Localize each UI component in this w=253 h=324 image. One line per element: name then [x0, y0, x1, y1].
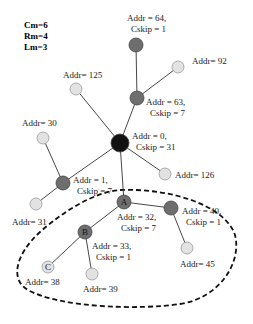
node-n40: Addr = 40,Cskip = 1	[164, 201, 221, 227]
node-label: Cskip = 1	[131, 24, 166, 34]
node-label: Addr= 92	[192, 56, 227, 66]
end_device-circle-icon	[181, 242, 193, 254]
node-label: Addr = 40,	[182, 206, 221, 216]
end_device-circle-icon	[159, 168, 171, 180]
node-n1: Addr = 1,Cskip = 7	[56, 175, 113, 196]
node-n92: Addr= 92	[172, 56, 227, 73]
param-lm: Lm=3	[24, 42, 48, 52]
edges	[36, 45, 187, 274]
node-label: Addr = 64,	[127, 13, 166, 23]
router-circle-icon	[130, 91, 144, 105]
param-cm: Cm=6	[24, 20, 48, 30]
node-n32: AAddr = 32,Cskip = 7	[117, 195, 157, 233]
parameters: Cm=6 Rm=4 Lm=3	[24, 20, 48, 52]
end_device-circle-icon	[70, 83, 82, 95]
node-label: Cskip = 1	[96, 252, 131, 262]
nodes: Addr = 0,Cskip = 31Addr = 63,Cskip = 7Ad…	[12, 13, 227, 294]
node-label: Addr = 63,	[146, 97, 185, 107]
node-label: Addr = 0,	[132, 131, 167, 141]
router-circle-icon	[129, 38, 143, 52]
node-label: Cskip = 7	[150, 108, 186, 118]
node-n0: Addr = 0,Cskip = 31	[111, 131, 176, 152]
node-n38: CAddr= 38	[25, 261, 60, 287]
end_device-circle-icon	[30, 198, 42, 210]
node-label: Addr= 126	[175, 170, 215, 180]
router-circle-icon	[56, 176, 70, 190]
node-label: Cskip = 7	[121, 223, 157, 233]
node-letter: B	[82, 227, 88, 237]
node-n45: Addr= 45	[180, 242, 215, 269]
node-letter: C	[45, 262, 51, 272]
zigbee-tree-diagram: Cm=6 Rm=4 Lm=3 Addr = 0,Cskip = 31Addr =…	[0, 0, 253, 324]
node-n125: Addr= 125	[63, 70, 103, 95]
node-n31: Addr= 31	[12, 198, 47, 227]
end_device-circle-icon	[37, 132, 49, 144]
node-n39: Addr= 39	[83, 268, 118, 294]
end_device-circle-icon	[172, 61, 184, 73]
node-letter: A	[121, 197, 128, 207]
param-rm: Rm=4	[24, 31, 48, 41]
edge-n63-n64	[136, 45, 137, 98]
node-label: Cskip = 7	[77, 186, 113, 196]
node-label: Addr= 125	[63, 70, 103, 80]
node-n126: Addr= 126	[159, 168, 215, 180]
node-n63: Addr = 63,Cskip = 7	[130, 91, 186, 118]
node-label: Cskip = 31	[136, 142, 176, 152]
node-label: Cskip = 1	[186, 217, 221, 227]
node-label: Addr= 30	[22, 118, 57, 128]
end_device-circle-icon	[86, 268, 98, 280]
edge-n0-n125	[76, 89, 120, 143]
node-label: Addr= 39	[83, 284, 118, 294]
node-label: Addr= 31	[12, 217, 47, 227]
node-label: Addr = 32,	[117, 212, 156, 222]
node-label: Addr = 33,	[92, 241, 131, 251]
node-n30: Addr= 30	[22, 118, 57, 144]
edge-n63-n92	[137, 67, 178, 98]
coordinator-circle-icon	[111, 134, 129, 152]
node-label: Addr= 45	[180, 259, 215, 269]
node-label: Addr = 1,	[73, 175, 108, 185]
node-n64: Addr = 64,Cskip = 1	[127, 13, 166, 52]
edge-n33-n38	[48, 232, 85, 267]
node-label: Addr= 38	[25, 277, 60, 287]
router-circle-icon	[164, 201, 178, 215]
